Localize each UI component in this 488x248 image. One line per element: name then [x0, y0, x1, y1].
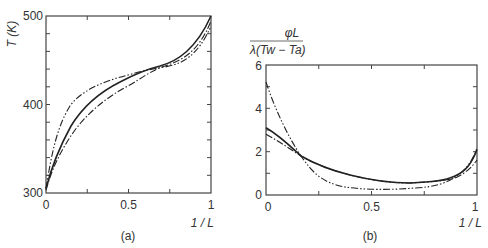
x-tick-label-1-b: 1 [472, 200, 479, 214]
panel-a: 500 400 300 0 0.5 1 T (K) 1 / L (a) [5, 9, 215, 243]
y-ticks-a [46, 34, 211, 176]
curve-solid-a [46, 16, 211, 189]
x-axis-label-b: 1 / L [459, 216, 482, 230]
y-tick-label-4: 4 [255, 102, 262, 116]
curve-dashdotdot-b [266, 82, 477, 189]
plot-frame-a [46, 16, 211, 193]
y-tick-label-300: 300 [23, 186, 43, 200]
curve-solid-b [266, 128, 477, 183]
y-tick-label-400: 400 [23, 98, 43, 112]
curve-dashdotdot-a [46, 26, 211, 189]
panel-caption-b: (b) [363, 229, 378, 243]
curve-dashdot-a [46, 21, 211, 190]
x-tick-label-1: 1 [208, 198, 215, 212]
y-axis-label-numerator: φL [285, 26, 300, 40]
x-tick-label-0.5: 0.5 [120, 198, 137, 212]
plot-frame-b [266, 65, 477, 195]
panel-caption-a: (a) [121, 229, 136, 243]
x-axis-label-a: 1 / L [191, 216, 214, 230]
curve-dashdot-b [266, 134, 477, 183]
figure: 500 400 300 0 0.5 1 T (K) 1 / L (a) 6 4 … [0, 0, 488, 248]
y-tick-label-500: 500 [23, 9, 43, 23]
x-tick-label-0-b: 0 [265, 200, 272, 214]
x-tick-label-0.5-b: 0.5 [363, 200, 380, 214]
y-tick-label-2: 2 [255, 145, 262, 159]
y-tick-label-0: 0 [255, 188, 262, 202]
x-ticks-b [319, 65, 425, 195]
y-ticks-b [266, 87, 477, 174]
y-axis-label-denominator: λ(Tw − Ta) [249, 43, 306, 57]
y-tick-label-6: 6 [255, 59, 262, 73]
y-axis-label-a: T (K) [5, 21, 19, 48]
panel-b: 6 4 2 0 0 0.5 1 φL λ(Tw − Ta) 1 / L (b) [249, 26, 482, 243]
x-tick-label-0: 0 [43, 198, 50, 212]
